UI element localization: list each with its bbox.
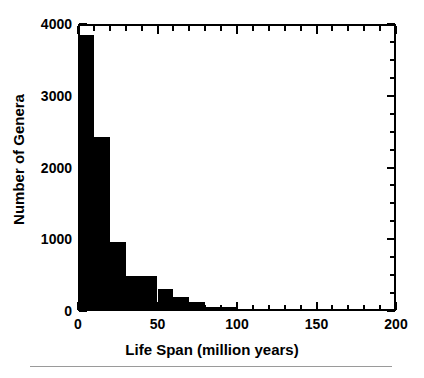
x-tick-minor-top xyxy=(125,26,127,31)
histogram-bar xyxy=(253,309,269,311)
histogram-bar xyxy=(142,276,158,311)
x-tick-minor xyxy=(172,305,174,310)
y-tick-major xyxy=(79,23,87,25)
x-tick-minor xyxy=(252,305,254,310)
x-tick-minor xyxy=(204,305,206,310)
y-tick-major xyxy=(79,238,87,240)
x-tick-label: 200 xyxy=(384,316,407,332)
x-tick-minor-top xyxy=(347,26,349,31)
x-tick-minor xyxy=(188,305,190,310)
x-tick-major-top xyxy=(395,26,397,34)
x-tick-major-top xyxy=(77,26,79,34)
y-tick-minor xyxy=(79,184,84,186)
x-tick-minor-top xyxy=(331,26,333,31)
y-tick-label: 0 xyxy=(16,303,72,319)
y-tick-minor-right xyxy=(390,59,395,61)
y-tick-minor-right xyxy=(390,292,395,294)
footer-rule xyxy=(30,366,392,367)
y-tick-major-right xyxy=(387,23,395,25)
x-tick-minor-top xyxy=(109,26,111,31)
x-tick-major xyxy=(395,302,397,310)
histogram-bar xyxy=(126,276,142,311)
x-tick-minor xyxy=(331,305,333,310)
x-tick-minor-top xyxy=(252,26,254,31)
x-tick-major xyxy=(236,302,238,310)
x-tick-minor-top xyxy=(300,26,302,31)
x-tick-major-top xyxy=(236,26,238,34)
y-tick-major-right xyxy=(387,95,395,97)
x-tick-minor xyxy=(363,305,365,310)
x-tick-minor xyxy=(347,305,349,310)
histogram-bar xyxy=(189,302,205,311)
y-tick-minor xyxy=(79,113,84,115)
y-tick-minor-right xyxy=(390,113,395,115)
y-tick-major xyxy=(79,310,87,312)
y-tick-minor xyxy=(79,220,84,222)
x-tick-minor xyxy=(300,305,302,310)
y-tick-major-right xyxy=(387,167,395,169)
y-tick-minor xyxy=(79,149,84,151)
y-tick-minor xyxy=(79,256,84,258)
x-tick-minor xyxy=(125,305,127,310)
x-tick-label: 50 xyxy=(150,316,166,332)
x-tick-major-top xyxy=(316,26,318,34)
y-tick-minor-right xyxy=(390,184,395,186)
histogram-bar xyxy=(94,137,110,311)
x-tick-major xyxy=(157,302,159,310)
x-tick-minor-top xyxy=(204,26,206,31)
x-tick-minor-top xyxy=(93,26,95,31)
x-tick-minor-top xyxy=(220,26,222,31)
x-tick-label: 100 xyxy=(225,316,248,332)
histogram-bar xyxy=(110,242,126,311)
x-tick-minor xyxy=(141,305,143,310)
y-tick-minor xyxy=(79,202,84,204)
x-tick-major-top xyxy=(157,26,159,34)
x-tick-minor-top xyxy=(268,26,270,31)
x-tick-minor xyxy=(93,305,95,310)
histogram-bar xyxy=(237,309,253,311)
y-tick-major xyxy=(79,95,87,97)
y-tick-minor xyxy=(79,131,84,133)
y-tick-minor-right xyxy=(390,149,395,151)
x-tick-minor xyxy=(109,305,111,310)
x-tick-minor-top xyxy=(141,26,143,31)
histogram-bar xyxy=(173,297,189,311)
y-tick-minor-right xyxy=(390,256,395,258)
histogram-bar xyxy=(221,307,237,311)
y-tick-minor-right xyxy=(390,274,395,276)
x-axis-title: Life Span (million years) xyxy=(0,341,424,358)
y-tick-minor-right xyxy=(390,202,395,204)
y-axis-title: Number of Genera xyxy=(10,70,27,250)
y-tick-major-right xyxy=(387,238,395,240)
x-tick-major xyxy=(77,302,79,310)
x-tick-minor xyxy=(379,305,381,310)
x-tick-minor-top xyxy=(172,26,174,31)
y-tick-label: 4000 xyxy=(16,16,72,32)
x-tick-minor xyxy=(220,305,222,310)
x-tick-minor-top xyxy=(363,26,365,31)
x-tick-minor-top xyxy=(284,26,286,31)
y-tick-minor-right xyxy=(390,220,395,222)
histogram-figure: 05010015020001000200030004000 Life Span … xyxy=(0,0,424,378)
x-tick-minor-top xyxy=(188,26,190,31)
x-tick-major xyxy=(316,302,318,310)
histogram-bar xyxy=(285,309,301,311)
x-tick-minor-top xyxy=(379,26,381,31)
y-tick-major-right xyxy=(387,310,395,312)
y-tick-minor xyxy=(79,59,84,61)
y-tick-major xyxy=(79,167,87,169)
histogram-bar xyxy=(158,289,174,311)
y-tick-minor xyxy=(79,41,84,43)
y-tick-minor xyxy=(79,274,84,276)
histogram-bar xyxy=(205,307,221,311)
y-tick-minor-right xyxy=(390,41,395,43)
y-tick-minor xyxy=(79,292,84,294)
x-tick-minor xyxy=(268,305,270,310)
x-tick-label: 150 xyxy=(305,316,328,332)
y-tick-minor xyxy=(79,77,84,79)
x-tick-label: 0 xyxy=(74,316,82,332)
histogram-bars xyxy=(78,24,396,311)
y-tick-minor-right xyxy=(390,77,395,79)
y-tick-minor-right xyxy=(390,131,395,133)
x-tick-minor xyxy=(284,305,286,310)
